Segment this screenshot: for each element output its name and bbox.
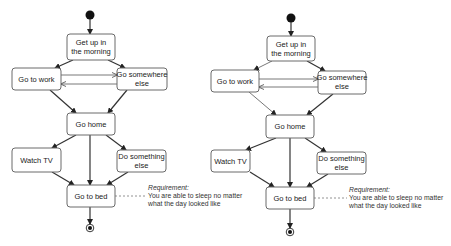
diagram-right: Get up in the morning Go to work Go some… (211, 14, 444, 236)
node-go-somewhere-else: Go somewhere else (317, 71, 368, 94)
node-go-somewhere-else: Go somewhere else (117, 68, 168, 90)
node-get-up: Get up in the morning (267, 36, 315, 61)
node-label: Go to work (18, 75, 55, 84)
requirement-note: Requirement: You are able to sleep no ma… (147, 184, 243, 208)
node-label: Go somewhere (317, 73, 368, 82)
diagram-left: Get up in the morning Go to work Go some… (12, 11, 243, 232)
node-do-something-else: Do something else (317, 152, 366, 174)
node-label: Go to bed (274, 194, 307, 203)
note-line: You are able to sleep no matter (349, 194, 444, 202)
node-label: the morning (71, 47, 111, 56)
node-label: Get up in (276, 40, 306, 49)
node-label: Go home (76, 120, 107, 129)
node-label: else (135, 161, 149, 170)
node-label: Watch TV (214, 157, 247, 166)
node-go-to-work: Go to work (211, 70, 259, 92)
node-watch-tv: Watch TV (12, 148, 61, 172)
requirement-note: Requirement: You are able to sleep no ma… (348, 186, 444, 210)
node-go-to-bed: Go to bed (67, 185, 115, 207)
node-label: Go to work (217, 77, 254, 86)
node-go-to-bed: Go to bed (266, 187, 314, 209)
node-go-to-work: Go to work (12, 68, 61, 90)
node-label: Do something (318, 154, 364, 163)
node-label: Watch TV (20, 156, 53, 165)
final-node-icon (286, 228, 294, 236)
note-line: You are able to sleep no matter (148, 192, 243, 200)
note-line: what the day looked like (147, 200, 221, 208)
node-label: Do something (118, 152, 164, 161)
node-label: Go to bed (75, 192, 108, 201)
node-label: else (335, 82, 349, 91)
note-title: Requirement: (148, 184, 189, 192)
node-label: Get up in (76, 38, 106, 47)
initial-node-icon (86, 11, 95, 20)
node-go-home: Go home (67, 113, 115, 135)
initial-node-icon (287, 14, 296, 23)
node-label: else (335, 163, 349, 172)
node-label: Go somewhere (117, 70, 168, 79)
activity-diagrams: Get up in the morning Go to work Go some… (0, 0, 451, 246)
node-do-something-else: Do something else (117, 150, 166, 172)
node-label: Go home (275, 122, 306, 131)
note-title: Requirement: (349, 186, 390, 194)
node-watch-tv: Watch TV (211, 150, 250, 172)
final-node-icon (86, 224, 94, 232)
node-go-home: Go home (266, 115, 314, 138)
note-line: what the day looked like (348, 202, 422, 210)
node-label: the morning (271, 49, 311, 58)
node-label: else (135, 79, 149, 88)
node-get-up: Get up in the morning (67, 34, 115, 60)
